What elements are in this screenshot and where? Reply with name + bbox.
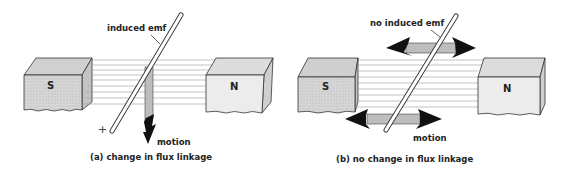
panel-a: S N indu — [24, 15, 273, 162]
magnet-north-b: N — [478, 58, 545, 115]
magnet-label-s-a: S — [47, 80, 54, 91]
magnet-label-n-a: N — [230, 81, 238, 92]
caption-a: (a) change in flux linkage — [90, 152, 212, 162]
flux-linkage-diagram: S N indu — [0, 0, 569, 177]
caption-b: (b) no change in flux linkage — [336, 154, 473, 164]
flux-lines-b — [355, 60, 484, 107]
emf-label-b: no induced emf — [370, 18, 444, 28]
magnet-label-s-b: S — [322, 81, 329, 92]
emf-leader-b — [431, 30, 440, 37]
magnet-label-n-b: N — [503, 83, 511, 94]
magnet-north-a: N — [206, 58, 273, 113]
polarity-plus-a: + — [98, 123, 107, 136]
emf-label-a: induced emf — [107, 23, 167, 33]
motion-label-a: motion — [157, 137, 191, 147]
magnet-south-a: S — [24, 58, 92, 111]
panel-b: S — [298, 16, 545, 164]
emf-leader-a — [151, 35, 160, 44]
magnet-south-b: S — [298, 58, 358, 113]
motion-label-b: motion — [413, 133, 447, 143]
